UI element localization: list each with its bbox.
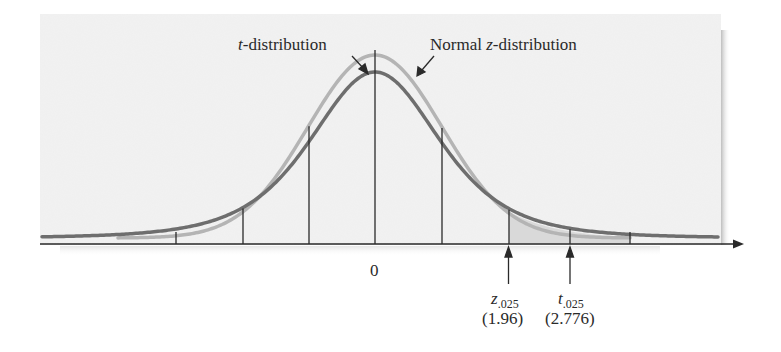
t-distribution-label: t-distribution — [238, 36, 327, 53]
normal-z-distribution-label: Normal z-distribution — [430, 36, 577, 53]
t-critical-symbol: t.025 — [558, 290, 584, 307]
panel-shadow — [721, 30, 730, 245]
figure-canvas — [0, 0, 781, 352]
center-tick-label: 0 — [370, 262, 379, 279]
t-critical-value: (2.776) — [545, 310, 595, 327]
axis-arrow-icon — [733, 240, 744, 249]
z-critical-value: (1.96) — [482, 310, 523, 327]
background-panel — [40, 14, 730, 256]
z-critical-symbol: z.025 — [491, 290, 519, 307]
t-vs-z-distribution-figure: t-distribution Normal z-distribution 0 z… — [0, 0, 781, 352]
